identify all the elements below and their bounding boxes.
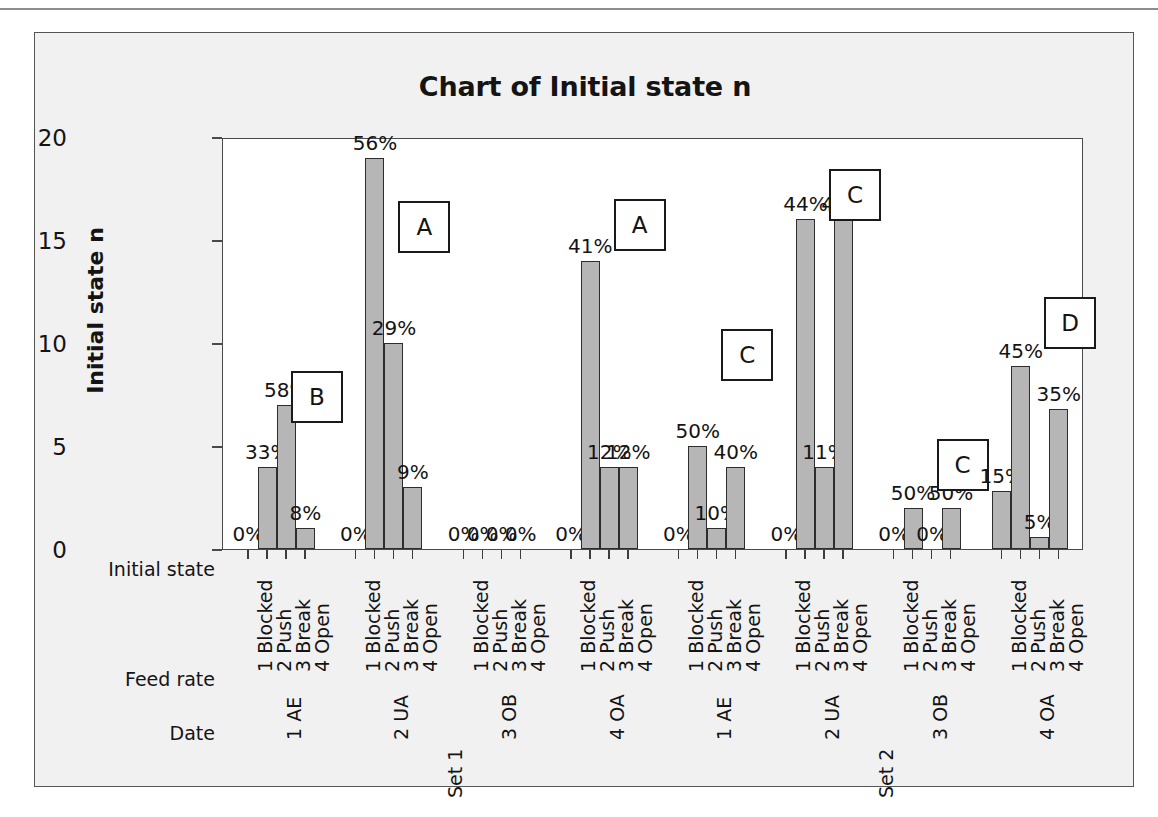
bar <box>1030 537 1049 549</box>
bar-value-label: 0% <box>505 522 537 546</box>
x-axis-tick-mark <box>893 550 894 559</box>
bar-value-label: 8% <box>289 501 321 525</box>
x-axis-category-label: 4 Open <box>311 603 333 672</box>
plot-area: 0%33%58%8%B0%56%29%9%A0%0%0%0%0%41%12%12… <box>222 138 1083 550</box>
y-axis-tick-label: 20 <box>17 125 67 151</box>
bar <box>365 158 384 549</box>
x-axis-category-label: 4 Open <box>419 603 441 672</box>
group-annotation-box: C <box>721 329 773 381</box>
x-axis-group-label: 1 AE <box>283 697 305 740</box>
top-rule <box>0 8 1158 10</box>
group-annotation-box: A <box>614 199 666 251</box>
x-axis-tick-mark <box>950 550 951 559</box>
bar <box>726 467 745 549</box>
x-axis-tick-mark <box>716 550 717 559</box>
bar <box>258 467 277 549</box>
axis-row-header-date: Date <box>65 722 215 744</box>
x-axis-tick-mark <box>678 550 679 559</box>
bar-value-label: 41% <box>568 234 612 258</box>
group-annotation-box: A <box>398 201 450 253</box>
x-axis-tick-mark <box>912 550 913 559</box>
x-axis-group-label: 4 OA <box>606 694 628 740</box>
group-annotation-box: C <box>829 169 881 221</box>
x-axis-tick-mark <box>804 550 805 559</box>
x-axis-tick-mark <box>374 550 375 559</box>
x-axis-group-label: 3 OB <box>498 694 520 740</box>
y-axis-tick-mark <box>212 343 222 344</box>
x-axis-group-label: 2 UA <box>821 695 843 740</box>
axis-row-header-feed-rate: Feed rate <box>65 668 215 690</box>
bar <box>403 487 422 549</box>
x-axis-tick-mark <box>842 550 843 559</box>
y-axis-tick-mark <box>212 549 222 550</box>
bar <box>992 491 1011 549</box>
bar <box>942 508 961 549</box>
group-annotation-box: D <box>1044 297 1096 349</box>
bar-value-label: 12% <box>606 440 650 464</box>
x-axis-set-label: Set 1 <box>444 749 466 798</box>
x-axis-category-label: 4 Open <box>849 603 871 672</box>
x-axis-category-label: 4 Open <box>742 603 764 672</box>
x-axis-tick-mark <box>608 550 609 559</box>
y-axis-tick-label: 0 <box>17 537 67 563</box>
y-axis-title: Initial state n <box>83 201 108 421</box>
y-axis-tick-label: 15 <box>17 228 67 254</box>
bars-layer: 0%33%58%8%B0%56%29%9%A0%0%0%0%0%41%12%12… <box>223 139 1082 549</box>
x-axis-tick-mark <box>463 550 464 559</box>
x-axis-category-label: 4 Open <box>1065 603 1087 672</box>
y-axis-tick-label: 5 <box>17 434 67 460</box>
x-axis-tick-mark <box>1001 550 1002 559</box>
x-axis-group-label: 1 AE <box>713 697 735 740</box>
x-axis-group-label: 2 UA <box>390 695 412 740</box>
x-axis-tick-mark <box>1058 550 1059 559</box>
bar-value-label: 9% <box>397 460 429 484</box>
x-axis-tick-mark <box>247 550 248 559</box>
bar <box>581 261 600 549</box>
x-axis-tick-mark <box>285 550 286 559</box>
axis-row-header-initial-state: Initial state <box>65 558 215 580</box>
x-axis-tick-mark <box>412 550 413 559</box>
x-axis-tick-mark <box>627 550 628 559</box>
bar <box>834 219 853 549</box>
bar-value-label: 40% <box>714 440 758 464</box>
y-axis-tick-mark <box>212 137 222 138</box>
x-axis-category-label: 4 Open <box>634 603 656 672</box>
bar <box>707 528 726 549</box>
x-axis-group-label: 4 OA <box>1036 694 1058 740</box>
y-axis-tick-label: 10 <box>17 331 67 357</box>
bar-value-label: 29% <box>372 316 416 340</box>
x-axis-tick-mark <box>785 550 786 559</box>
bar <box>384 343 403 549</box>
x-axis-category-label: 4 Open <box>527 603 549 672</box>
x-axis-tick-mark <box>482 550 483 559</box>
chart-frame: Chart of Initial state n Initial state n… <box>34 32 1134 787</box>
group-annotation-box: B <box>291 371 343 423</box>
x-axis-tick-mark <box>570 550 571 559</box>
x-axis-tick-mark <box>1020 550 1021 559</box>
x-axis-tick-mark <box>393 550 394 559</box>
y-axis-tick-mark <box>212 446 222 447</box>
x-axis-tick-mark <box>589 550 590 559</box>
bar <box>1049 409 1068 549</box>
x-axis-tick-mark <box>735 550 736 559</box>
x-axis-tick-mark <box>823 550 824 559</box>
y-axis-tick-mark <box>212 240 222 241</box>
bar <box>296 528 315 549</box>
x-axis-tick-mark <box>501 550 502 559</box>
bar-value-label: 45% <box>998 339 1042 363</box>
bar <box>688 446 707 549</box>
bar-value-label: 35% <box>1036 382 1080 406</box>
x-axis-tick-mark <box>520 550 521 559</box>
x-axis-tick-mark <box>266 550 267 559</box>
x-axis-tick-mark <box>1039 550 1040 559</box>
x-axis-tick-mark <box>697 550 698 559</box>
x-axis-tick-mark <box>355 550 356 559</box>
bar <box>619 467 638 549</box>
x-axis-tick-mark <box>931 550 932 559</box>
bar-value-label: 56% <box>353 131 397 155</box>
x-axis-group-label: 3 OB <box>929 694 951 740</box>
bar <box>277 405 296 549</box>
x-axis-tick-mark <box>304 550 305 559</box>
page-title: Chart of Initial state n <box>35 71 1135 102</box>
bar <box>796 219 815 549</box>
